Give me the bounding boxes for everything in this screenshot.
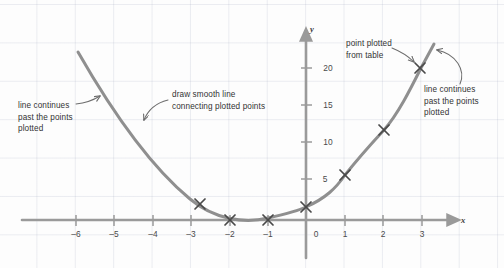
y-axis-label: y <box>310 24 314 34</box>
x-tick-label: –5 <box>109 229 118 239</box>
plotted-points <box>195 63 425 225</box>
leader-arrow-right-line-continues <box>437 50 462 84</box>
y-tick-label: 15 <box>323 100 332 110</box>
annotation-left-line-continues: line continues past the points plotted <box>18 100 73 135</box>
annotation-draw-smooth-line: draw smooth line connecting plotted poin… <box>172 89 265 112</box>
figure-canvas: –6 –5 –4 –3 –2 –1 0 1 2 3 5 10 15 20 x y… <box>0 0 504 268</box>
y-tick-label: 5 <box>323 174 328 184</box>
point-marker <box>340 170 350 180</box>
x-tick-label: 0 <box>314 229 319 239</box>
graph-plot <box>0 0 504 268</box>
y-tick-label: 10 <box>323 137 332 147</box>
annotation-right-line-continues: line continues past the points plotted <box>424 84 479 119</box>
annotation-point-plotted: point plotted from table <box>346 38 392 61</box>
x-tick-label: 1 <box>343 229 348 239</box>
point-marker <box>379 125 389 135</box>
x-tick-label: 3 <box>420 229 425 239</box>
leader-arrow-left-line-continues <box>76 96 100 104</box>
leader-arrow-draw-smooth-line <box>144 100 168 120</box>
x-tick-label: –2 <box>225 229 234 239</box>
leader-arrow-point-plotted <box>392 48 414 62</box>
x-tick-label: –6 <box>71 229 80 239</box>
y-tick-label: 20 <box>323 63 332 73</box>
x-tick-label: 2 <box>381 229 386 239</box>
x-tick-label: –4 <box>148 229 157 239</box>
smooth-curve <box>78 44 434 220</box>
x-axis-label: x <box>461 215 465 225</box>
y-axis <box>301 36 312 258</box>
x-tick-label: –1 <box>263 229 272 239</box>
x-tick-label: –3 <box>186 229 195 239</box>
